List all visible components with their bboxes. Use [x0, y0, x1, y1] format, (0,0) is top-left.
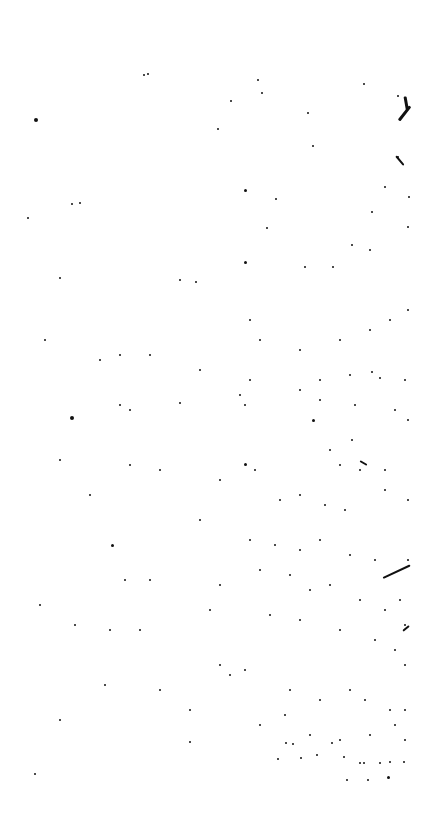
- speck: [39, 604, 41, 606]
- speck: [209, 609, 211, 611]
- speck: [199, 519, 201, 521]
- speck: [244, 261, 247, 264]
- speck: [312, 145, 314, 147]
- speck: [299, 494, 301, 496]
- speck: [189, 709, 191, 711]
- speck: [374, 639, 376, 641]
- speck: [403, 761, 405, 763]
- speck: [279, 499, 281, 501]
- speck: [404, 664, 406, 666]
- speck: [319, 399, 321, 401]
- speck: [309, 589, 311, 591]
- speck: [99, 359, 101, 361]
- speck: [384, 186, 386, 188]
- speck: [399, 599, 401, 601]
- speck: [219, 479, 221, 481]
- speck: [312, 419, 315, 422]
- speck: [299, 619, 301, 621]
- speck: [292, 743, 294, 745]
- speck: [261, 92, 263, 94]
- ink-stroke: [360, 460, 368, 466]
- speck: [275, 198, 277, 200]
- speck: [124, 579, 126, 581]
- speck: [179, 279, 181, 281]
- speck: [359, 762, 361, 764]
- speck: [364, 699, 366, 701]
- speck: [299, 349, 301, 351]
- speck: [259, 339, 261, 341]
- speck: [229, 674, 231, 676]
- speck: [269, 614, 271, 616]
- speck: [331, 742, 333, 744]
- speck: [254, 469, 256, 471]
- speck: [309, 734, 311, 736]
- speck: [179, 402, 181, 404]
- speck: [149, 579, 151, 581]
- speck: [404, 739, 406, 741]
- speck: [304, 266, 306, 268]
- speck: [384, 489, 386, 491]
- speck: [59, 277, 61, 279]
- speck: [266, 227, 268, 229]
- speck: [343, 756, 345, 758]
- speck: [44, 339, 46, 341]
- speck: [363, 83, 365, 85]
- speck: [249, 539, 251, 541]
- speck: [74, 624, 76, 626]
- speck: [371, 211, 373, 213]
- speck: [363, 762, 365, 764]
- speck: [104, 684, 106, 686]
- speck: [339, 464, 341, 466]
- speck: [79, 202, 81, 204]
- speck: [339, 629, 341, 631]
- speck: [119, 354, 121, 356]
- speck: [384, 469, 386, 471]
- speck: [109, 629, 111, 631]
- speck: [319, 699, 321, 701]
- speck: [367, 779, 369, 781]
- speck: [143, 74, 145, 76]
- speck: [408, 196, 410, 198]
- speck: [111, 544, 114, 547]
- speck: [244, 669, 246, 671]
- speck: [159, 689, 161, 691]
- speck: [259, 569, 261, 571]
- speck: [404, 379, 406, 381]
- speck: [371, 371, 373, 373]
- speck: [284, 714, 286, 716]
- speck: [59, 459, 61, 461]
- speck: [359, 599, 361, 601]
- speck: [404, 709, 406, 711]
- speck: [369, 329, 371, 331]
- speck: [159, 469, 161, 471]
- speck: [369, 734, 371, 736]
- speck: [257, 79, 259, 81]
- speck: [374, 559, 376, 561]
- speckled-page: [0, 0, 442, 831]
- speck: [359, 469, 361, 471]
- speck: [149, 354, 151, 356]
- speck: [147, 73, 149, 75]
- speck: [89, 494, 91, 496]
- speck: [59, 719, 61, 721]
- ink-stroke: [383, 564, 411, 578]
- speck: [70, 416, 74, 420]
- speck: [349, 689, 351, 691]
- speck: [307, 112, 309, 114]
- speck: [339, 339, 341, 341]
- speck: [397, 95, 399, 97]
- speck: [199, 369, 201, 371]
- speck: [129, 409, 131, 411]
- speck: [230, 100, 232, 102]
- speck: [332, 266, 334, 268]
- speck: [329, 584, 331, 586]
- speck: [289, 689, 291, 691]
- speck: [394, 724, 396, 726]
- speck: [369, 249, 371, 251]
- speck: [394, 649, 396, 651]
- speck: [274, 544, 276, 546]
- speck: [244, 404, 246, 406]
- speck: [407, 309, 409, 311]
- speck: [324, 504, 326, 506]
- speck: [379, 762, 381, 764]
